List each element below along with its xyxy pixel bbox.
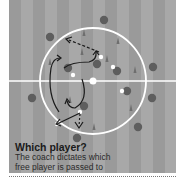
player-marker — [148, 94, 156, 102]
caption-line-2: free player is passed to — [15, 163, 175, 173]
dotted-divider — [9, 176, 176, 177]
dashed-pass-arrow — [69, 40, 99, 52]
player-marker — [134, 123, 142, 131]
player-marker — [28, 94, 36, 102]
cone-icon — [93, 123, 96, 130]
curved-run-arrow — [64, 52, 96, 68]
player-marker — [149, 63, 157, 71]
center-spot — [90, 78, 97, 85]
cone-icon — [83, 29, 86, 36]
football-pitch: Which player? The coach dictates which f… — [9, 0, 176, 173]
ball-marker — [111, 65, 115, 69]
caption: Which player? The coach dictates which f… — [15, 141, 175, 172]
curved-run-arrow — [50, 58, 60, 112]
cone-icon — [49, 58, 52, 65]
dashed-run-arrow — [79, 114, 80, 126]
cone-icon — [81, 48, 84, 55]
player-marker — [93, 60, 101, 68]
cone-icon — [106, 55, 109, 62]
ball-marker — [71, 73, 75, 77]
cone-icon — [117, 37, 120, 44]
pass-arrow — [57, 113, 80, 124]
ball-marker — [99, 55, 103, 59]
ball-marker — [120, 89, 124, 93]
player-marker — [100, 16, 108, 24]
player-marker — [46, 33, 54, 41]
cone-icon — [130, 104, 133, 111]
cone-icon — [134, 66, 137, 73]
